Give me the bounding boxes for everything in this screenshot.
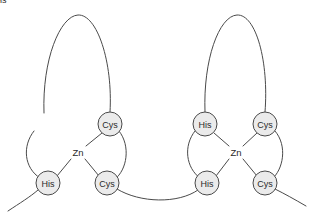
residue-label: His: [199, 120, 212, 130]
backbone-f1-cys-arc: [26, 131, 40, 178]
residue-node-group: Cys His Cys His Cys His: [0, 0, 277, 195]
residue-node-f1-his-bot[interactable]: His: [193, 112, 217, 136]
residue-node-f2-his-bot[interactable]: His: [0, 0, 7, 5]
metal-label-zn-finger-2: Zn: [230, 147, 241, 158]
residue-node-f2-cys-bot[interactable]: Cys: [253, 171, 277, 195]
residue-label: Cys: [99, 179, 115, 189]
residue-node-f2-his-top[interactable]: His: [195, 171, 219, 195]
residue-label: Cys: [257, 179, 273, 189]
residue-node-f1-cys-bot[interactable]: Cys: [95, 171, 119, 195]
zinc-finger-diagram: Cys His Cys His Cys His: [0, 0, 314, 224]
residue-node-f1-his-top[interactable]: His: [36, 171, 60, 195]
coordination-bond-group: [0, 0, 257, 176]
residue-label: His: [201, 179, 214, 189]
coordination-bond-f1-his-top: [57, 159, 71, 176]
zinc-finger-canvas: Cys His Cys His Cys His: [0, 0, 314, 224]
coordination-bond-f1-cys-bot: [85, 159, 99, 176]
residue-node-f1-cys-top[interactable]: Cys: [98, 112, 122, 136]
coordination-bond-f2-cys-top: [243, 133, 257, 146]
backbone-f1-left-tail: [8, 190, 38, 211]
backbone-f2-his-arc: [272, 131, 283, 179]
backbone-f1-his-arc: [115, 131, 126, 179]
backbone-f2-top-loop: [205, 15, 266, 112]
coordination-bond-f2-cys-bot: [243, 159, 257, 176]
residue-label: Cys: [257, 120, 273, 130]
residue-label: His: [42, 179, 55, 189]
backbone-inter-finger-linker: [117, 189, 198, 200]
coordination-bond-f1-his-bot: [214, 133, 229, 146]
metal-label-group: Zn Zn: [72, 147, 241, 158]
backbone-f2-right-tail: [275, 189, 306, 206]
residue-node-f2-cys-top[interactable]: Cys: [253, 112, 277, 136]
metal-label-zn-finger-1: Zn: [72, 147, 83, 158]
backbone-f1-top-loop: [44, 15, 111, 113]
coordination-bond-f2-his-top: [216, 159, 229, 176]
residue-label: His: [0, 0, 7, 5]
residue-label: Cys: [102, 120, 118, 130]
backbone-f2-cys-arc: [188, 131, 200, 178]
coordination-bond-f1-cys-top: [86, 133, 102, 146]
